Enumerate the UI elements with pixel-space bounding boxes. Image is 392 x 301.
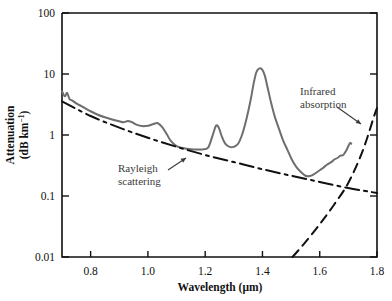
x-axis-title-main: Wavelength (	[178, 281, 243, 294]
attenuation-vs-wavelength-figure: 0.81.01.21.41.61.8 1001010.10.01 Rayleig…	[0, 0, 392, 301]
x-tick-label: 1.6	[313, 265, 328, 277]
x-axis-tick-labels: 0.81.01.21.41.61.8	[83, 265, 384, 277]
x-tick-label: 0.8	[83, 265, 98, 277]
series-infrared-absorption	[293, 108, 377, 257]
y-axis-title-line1: Attenuation	[4, 105, 16, 164]
infrared-absorption-arrow-head	[356, 119, 361, 124]
x-tick-label: 1.4	[255, 265, 270, 277]
x-tick-label: 1.0	[141, 265, 156, 277]
x-axis-title: Wavelength (μm)	[178, 281, 263, 294]
x-axis-title-text: Wavelength (μm)	[178, 281, 263, 294]
rayleigh-scattering-label-line1: Rayleigh	[118, 162, 158, 174]
y-axis-title-unit-close: )	[18, 111, 31, 115]
y-tick-label: 0.1	[41, 190, 56, 202]
x-axis-title-tail: m)	[249, 281, 263, 294]
x-tick-label: 1.2	[198, 265, 213, 277]
y-tick-label: 100	[38, 7, 56, 19]
y-axis-ticks	[62, 13, 377, 257]
rayleigh-scattering-label-line2: scattering	[118, 175, 161, 187]
rayleigh-scattering-arrow-head	[181, 158, 186, 163]
x-axis-ticks	[91, 251, 377, 257]
y-axis-title-unit-exponent: −1	[17, 114, 26, 122]
infrared-absorption-label-line2: absorption	[300, 98, 347, 110]
annotation-group: RayleighscatteringInfraredabsorption	[118, 85, 361, 187]
plot-frame	[62, 13, 377, 257]
y-tick-label: 10	[44, 68, 56, 80]
series-rayleigh-scattering	[62, 101, 377, 193]
frame-border	[62, 13, 377, 257]
y-axis-title: Attenuation (dB km−1)	[4, 105, 31, 164]
y-axis-title-line2: (dB km−1)	[17, 111, 31, 160]
y-tick-label: 0.01	[35, 251, 55, 263]
y-tick-label: 1	[49, 129, 55, 141]
infrared-absorption-label-line1: Infrared	[300, 85, 336, 97]
y-axis-tick-labels: 1001010.10.01	[35, 7, 55, 263]
chart-canvas: 0.81.01.21.41.61.8 1001010.10.01 Rayleig…	[0, 0, 392, 301]
y-axis-title-unit-main: (dB km	[18, 122, 31, 159]
x-tick-label: 1.8	[370, 265, 385, 277]
